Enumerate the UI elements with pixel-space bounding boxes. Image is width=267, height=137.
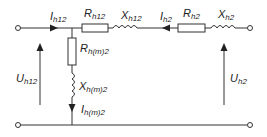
resistor-r-h12 bbox=[82, 24, 108, 32]
resistor-r-h2 bbox=[178, 24, 205, 32]
label-u-h2: Uh2 bbox=[230, 73, 247, 86]
label-r-hm2: Rh(m)2 bbox=[80, 43, 109, 56]
arrowhead-u-h12 bbox=[37, 43, 44, 51]
label-x-h2: Xh2 bbox=[218, 9, 234, 22]
arrowhead-u-h2 bbox=[221, 43, 228, 51]
inductor-x-hm2 bbox=[72, 73, 75, 97]
current-arrow-i-h2 bbox=[162, 25, 170, 32]
terminal-bottom-right bbox=[248, 123, 253, 128]
terminal-top-right bbox=[248, 26, 253, 31]
label-x-hm2: Xh(m)2 bbox=[79, 81, 107, 94]
label-x-h12: Xh12 bbox=[121, 10, 142, 23]
resistor-r-hm2 bbox=[68, 38, 76, 65]
current-arrow-i-h12 bbox=[50, 25, 58, 32]
inductor-x-h12 bbox=[113, 26, 137, 29]
label-i-hm2: Ih(m)2 bbox=[81, 104, 105, 117]
label-i-h12: Ih12 bbox=[50, 11, 66, 24]
current-arrow-i-hm2 bbox=[69, 104, 76, 112]
label-i-h2: Ih2 bbox=[160, 11, 172, 24]
terminal-top-left bbox=[16, 26, 21, 31]
label-r-h2: Rh2 bbox=[183, 8, 200, 21]
label-r-h12: Rh12 bbox=[84, 8, 105, 21]
label-u-h12: Uh12 bbox=[16, 73, 37, 86]
terminal-bottom-left bbox=[16, 123, 21, 128]
inductor-x-h2 bbox=[211, 26, 235, 29]
